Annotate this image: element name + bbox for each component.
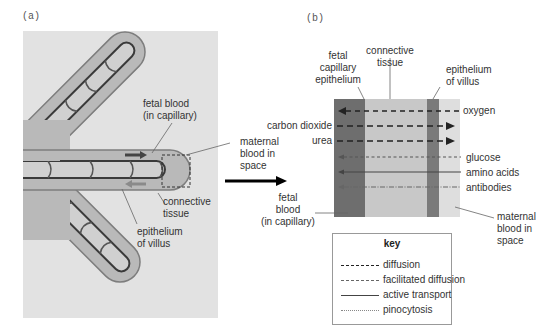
label-line: of villus	[446, 76, 492, 88]
legend-key: key diffusion facilitated diffusion acti…	[332, 233, 452, 325]
label-glucose: glucose	[466, 152, 500, 164]
label-line: space	[497, 235, 536, 247]
key-label: diffusion	[383, 259, 420, 271]
key-item-diffusion: diffusion	[341, 259, 451, 271]
key-item-pinocytosis: pinocytosis	[341, 304, 451, 316]
label-fetal-blood: fetal blood (in capillary)	[143, 98, 197, 122]
label-epithelium-a: epithelium of villus	[137, 226, 183, 250]
label-connective-tissue-a: connective tissue	[163, 196, 211, 220]
label-line: tissue	[365, 57, 415, 69]
label-line: fetal	[258, 192, 318, 204]
label-line: epithelium	[313, 74, 363, 86]
label-oxygen: oxygen	[463, 105, 495, 117]
label-line: epithelium	[137, 226, 183, 238]
label-line: tissue	[163, 208, 211, 220]
label-line: blood	[258, 204, 318, 216]
label-fetal-capillary-epithelium: fetal capillary epithelium	[313, 50, 363, 86]
label-line: fetal	[313, 50, 363, 62]
key-label: pinocytosis	[383, 304, 432, 316]
label-antibodies: antibodies	[466, 182, 512, 194]
label-connective-tissue-b: connective tissue	[365, 45, 415, 69]
label-amino-acids: amino acids	[466, 167, 519, 179]
label-line: (in capillary)	[143, 110, 197, 122]
label-line: connective	[163, 196, 211, 208]
label-maternal-blood-b: maternal blood in space	[497, 211, 536, 247]
label-fetal-blood-b: fetal blood (in capillary)	[258, 192, 318, 228]
label-carbon-dioxide: carbon dioxide	[262, 120, 332, 132]
key-item-active-transport: active transport	[341, 289, 451, 301]
label-line: maternal	[497, 211, 536, 223]
label-line: capillary	[313, 62, 363, 74]
label-line: blood in	[497, 223, 536, 235]
label-epithelium-of-villus-b: epithelium of villus	[446, 64, 492, 88]
solid-line-swatch	[341, 295, 379, 296]
label-urea: urea	[262, 135, 332, 147]
membrane-cross-section	[334, 99, 460, 217]
label-line: epithelium	[446, 64, 492, 76]
key-label: active transport	[383, 289, 451, 301]
label-line: of villus	[137, 238, 183, 250]
dashed-line-swatch	[341, 265, 379, 266]
dash-dot-line-swatch	[341, 310, 379, 311]
key-label: facilitated diffusion	[383, 274, 465, 286]
key-item-facilitated-diffusion: facilitated diffusion	[341, 274, 451, 286]
label-line: blood in	[240, 148, 279, 160]
label-line: (in capillary)	[258, 216, 318, 228]
short-dashed-line-swatch	[341, 280, 379, 281]
label-line: space	[240, 160, 279, 172]
label-line: fetal blood	[143, 98, 197, 110]
label-line: connective	[365, 45, 415, 57]
key-title: key	[333, 238, 451, 249]
